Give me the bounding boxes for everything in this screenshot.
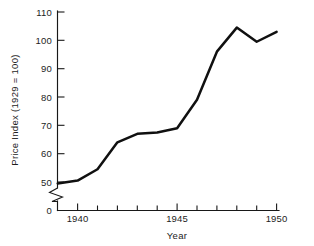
x-axis-title: Year <box>167 230 187 241</box>
y-tick-label-50: 50 <box>41 177 52 188</box>
y-tick-label-110: 110 <box>36 7 52 18</box>
y-tick-label-70: 70 <box>41 120 52 131</box>
x-tick-label-1945: 1945 <box>166 213 188 224</box>
x-tick-label-1940: 1940 <box>67 213 89 224</box>
x-axis-ticks <box>78 204 277 211</box>
y-tick-label-90: 90 <box>41 63 52 74</box>
y-tick-label-80: 80 <box>41 92 52 103</box>
y-tick-label-100: 100 <box>36 35 52 46</box>
y-axis-tick-labels: 110 100 90 80 70 60 50 0 <box>36 7 52 217</box>
y-tick-label-0: 0 <box>47 205 52 216</box>
y-axis-break-icon <box>50 188 63 202</box>
price-index-line-chart: 110 100 90 80 70 60 50 0 1940 1945 <box>0 0 314 246</box>
x-tick-label-1950: 1950 <box>266 213 288 224</box>
x-axis-tick-labels: 1940 1945 1950 <box>67 213 288 224</box>
y-tick-label-60: 60 <box>41 148 52 159</box>
chart-canvas: 110 100 90 80 70 60 50 0 1940 1945 <box>0 0 314 246</box>
y-axis-ticks <box>58 12 65 182</box>
y-axis-title: Price Index (1929 = 100) <box>9 54 20 166</box>
price-index-series-line <box>58 28 277 184</box>
